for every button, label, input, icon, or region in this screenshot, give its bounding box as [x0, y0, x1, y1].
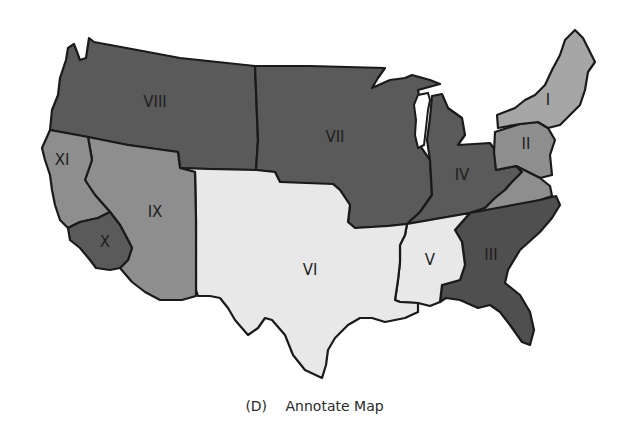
- us-region-map: VIII VII IV II I III V VI IX X XI: [0, 0, 629, 448]
- region-label-ix: IX: [148, 203, 163, 221]
- region-label-x: X: [100, 233, 110, 251]
- region-label-vii: VII: [325, 128, 344, 146]
- caption-text: Annotate Map: [286, 398, 384, 414]
- region-label-v: V: [425, 251, 436, 269]
- region-label-viii: VIII: [143, 93, 167, 111]
- region-label-i: I: [546, 91, 550, 109]
- region-label-xi: XI: [55, 151, 70, 169]
- region-label-ii: II: [522, 135, 531, 153]
- region-label-iv: IV: [455, 166, 470, 184]
- figure-caption: (D) Annotate Map: [0, 398, 629, 414]
- region-label-iii: III: [484, 246, 497, 264]
- region-label-vi: VI: [303, 261, 318, 279]
- region-i[interactable]: [497, 30, 595, 128]
- caption-letter: (D): [245, 398, 267, 414]
